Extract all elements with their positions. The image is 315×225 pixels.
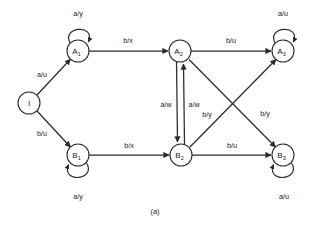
figure-caption: (a): [150, 207, 160, 216]
edge-label-I-B1: b/u: [37, 129, 47, 138]
self-loop-label-A1: a/y: [73, 9, 83, 18]
edge-label-A2-A3: b/u: [226, 36, 236, 45]
edge-label-A1-A2: b/x: [123, 36, 133, 45]
edge-layer: [37, 51, 276, 155]
edge-label-B2-B3: b/u: [227, 141, 237, 150]
state-machine-diagram: I A1 A2 A3 B1 B2: [0, 0, 315, 225]
edge-B2-A2: [184, 64, 185, 144]
edge-label-A2-B3: b/y: [260, 109, 270, 118]
self-loop-label-A3: a/u: [278, 9, 288, 18]
node-A2[interactable]: A2: [169, 40, 191, 62]
node-B1[interactable]: B1: [67, 144, 89, 166]
edge-label-B2-A2: a/w: [188, 100, 200, 109]
node-layer: I A1 A2 A3 B1 B2: [18, 40, 294, 166]
self-loop-label-B3: a/u: [279, 192, 289, 201]
edge-label-B2-A3: b/y: [202, 110, 212, 119]
edge-A2-B2: [177, 62, 178, 142]
figure-container: I A1 A2 A3 B1 B2: [0, 0, 315, 225]
node-A3[interactable]: A3: [272, 40, 294, 62]
edge-label-A2-B2: a/w: [160, 100, 172, 109]
node-B2[interactable]: B2: [170, 144, 192, 166]
self-loop-label-B1: a/y: [73, 192, 83, 201]
self-loop-label-layer: a/y a/u a/y a/u: [73, 9, 289, 201]
node-A1[interactable]: A1: [67, 40, 89, 62]
node-B3[interactable]: B3: [272, 144, 294, 166]
edge-label-B1-B2: b/x: [124, 141, 134, 150]
edge-label-I-A1: a/u: [37, 70, 47, 79]
node-label-I: I: [28, 99, 30, 108]
node-I[interactable]: I: [18, 92, 40, 114]
